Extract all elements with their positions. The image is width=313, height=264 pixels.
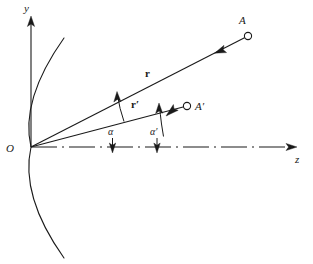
vector-diagram: y z O r r′ A A′ α α′ [0,0,313,264]
vector-r-label: r [145,67,150,79]
figure-canvas: y z O r r′ A A′ α α′ [0,0,313,264]
alpha-prime-angle-label: α′ [150,126,158,137]
wavefront-arc-curve [29,38,64,258]
vector-r-arrowhead [215,45,227,53]
point-A-prime-marker [183,102,190,109]
alpha-prime-angle-arc-arrowhead [156,103,163,113]
z-axis-arrowhead [286,143,297,150]
vector-r-line [31,38,245,148]
vector-r-prime-arrowhead [166,105,178,117]
alpha-angle-arc-arrowhead [114,92,121,103]
point-A-label: A [238,14,246,26]
vector-r-prime-label: r′ [131,98,139,110]
point-A-prime-label: A′ [194,100,205,112]
z-axis-label: z [294,153,300,165]
y-axis-label: y [23,2,29,14]
alpha-angle-label: α [108,126,114,137]
origin-label: O [6,142,14,154]
point-A-marker [244,32,251,39]
